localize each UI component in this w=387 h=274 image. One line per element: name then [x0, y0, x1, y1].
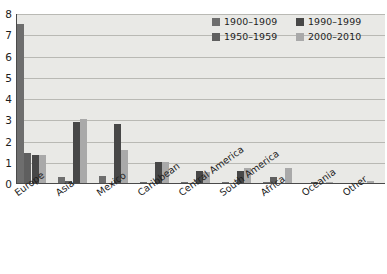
legend-item: 1950–1959 — [212, 30, 296, 44]
y-tick-label: 3 — [0, 115, 12, 126]
legend-label: 1900–1909 — [224, 17, 277, 26]
legend-item: 1990–1999 — [296, 15, 380, 29]
y-tick-label: 5 — [0, 73, 12, 84]
y-tick-label: 7 — [0, 30, 12, 41]
y-tick-label: 1 — [0, 158, 12, 169]
bar-chart: 012345678 EuropeAsiaMexicoCaribbeanCentr… — [0, 0, 387, 274]
y-tick-label: 6 — [0, 52, 12, 63]
legend-label: 2000–2010 — [308, 32, 361, 41]
legend-swatch-icon — [212, 33, 220, 41]
y-tick-label: 4 — [0, 94, 12, 105]
x-axis: EuropeAsiaMexicoCaribbeanCentral America… — [0, 184, 387, 254]
legend-swatch-icon — [212, 18, 220, 26]
legend-item: 2000–2010 — [296, 30, 380, 44]
y-tick-label: 8 — [0, 9, 12, 20]
legend-label: 1950–1959 — [224, 32, 277, 41]
chart-legend: 1900–19091990–19991950–19592000–2010 — [212, 14, 378, 44]
legend-swatch-icon — [296, 18, 304, 26]
legend-label: 1990–1999 — [308, 17, 361, 26]
legend-swatch-icon — [296, 33, 304, 41]
legend-item: 1900–1909 — [212, 15, 296, 29]
y-tick-label: 2 — [0, 137, 12, 148]
